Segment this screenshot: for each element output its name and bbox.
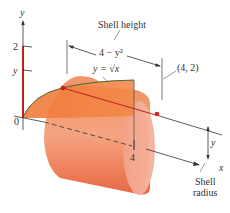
y-axis-arrow-icon	[21, 20, 25, 25]
point-label-leader	[163, 71, 176, 79]
height-arrow-right	[127, 56, 160, 66]
region-under-curve	[22, 76, 134, 118]
y-tick-2-label: 2	[13, 42, 18, 52]
x-axis-arrow-icon	[193, 162, 200, 167]
height-expression: 4 − y²	[99, 48, 123, 58]
origin-label: 0	[14, 117, 19, 127]
curve-label: y = √x	[93, 64, 119, 74]
shell-radius-leader	[200, 163, 205, 172]
radius-guide-line	[156, 115, 222, 135]
shell-height-label: Shell height	[98, 20, 146, 30]
y-axis-label: y	[20, 8, 24, 18]
shell-radius-label-1: Shell	[195, 177, 216, 187]
x-axis-label: x	[219, 163, 223, 173]
radius-y-label: y	[211, 138, 215, 148]
point-label: (4, 2)	[177, 63, 199, 73]
shell-method-diagram: y 2 y 0 4 x Shell height 4 − y² y = √x (…	[0, 0, 230, 213]
y-tick-y-label: y	[13, 66, 17, 76]
strip-right-dot	[155, 112, 160, 117]
x-tick-4-label: 4	[130, 153, 135, 163]
y-tick-y	[23, 70, 32, 71]
y-tick-2	[23, 46, 32, 47]
shell-radius-label-2: radius	[193, 188, 217, 198]
shell-height-leader	[114, 30, 120, 40]
strip-left-dot	[61, 86, 66, 91]
